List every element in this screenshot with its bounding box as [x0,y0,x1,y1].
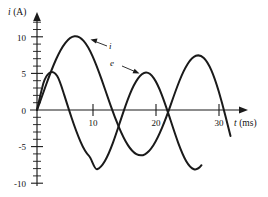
curve-label-e: e [110,58,114,68]
x-ticklabel-30: 30 [215,118,225,128]
curve-label-i: i [109,41,112,51]
y-ticklabel-0: 0 [22,106,27,116]
tick-labels: 10 5 0 -5 -10 10 20 30 [14,33,224,189]
y-ticklabel-minus5: -5 [19,142,27,152]
x-ticklabel-20: 20 [152,118,162,128]
y-ticklabel-10: 10 [17,33,27,43]
y-axis-symbol: i [8,7,11,17]
y-axis-title: i(A) [8,7,26,18]
y-ticklabel-5: 5 [22,69,27,79]
annotation-e: e [110,58,140,74]
y-axis-unit: (A) [13,7,26,18]
x-axis-arrowhead [239,106,248,113]
curve-i [37,36,231,155]
chart-svg: 10 5 0 -5 -10 10 20 30 i(A) t(ms) i [0,0,268,197]
x-axis-unit: (ms) [239,118,256,129]
leader-arrowhead-i [91,39,98,44]
x-ticklabel-10: 10 [89,118,99,128]
y-axis-arrowhead [33,12,41,21]
x-axis-title: t(ms) [234,118,257,129]
y-ticklabel-minus10: -10 [14,179,26,189]
annotation-i: i [91,39,113,51]
x-axis-symbol: t [234,118,237,128]
leader-arrowhead-e [133,69,140,74]
axis-group [30,12,248,186]
chart-figure: 10 5 0 -5 -10 10 20 30 i(A) t(ms) i [0,0,268,197]
